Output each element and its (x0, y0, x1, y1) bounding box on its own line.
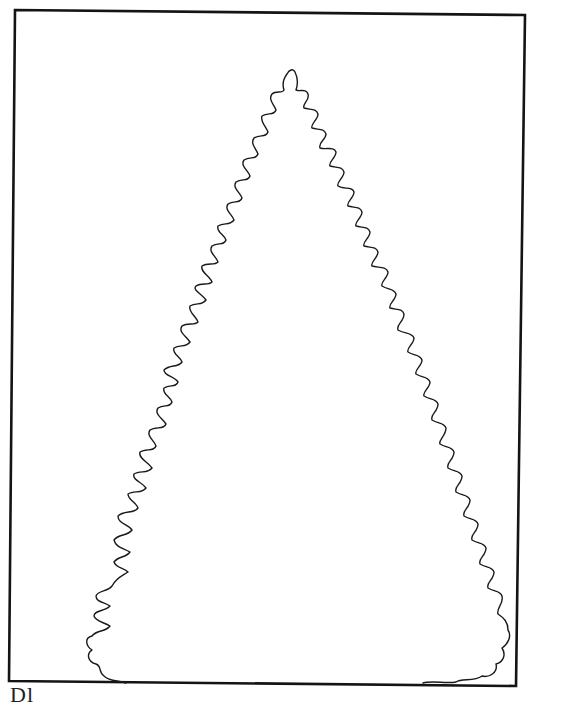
tree-outline (87, 70, 510, 683)
bottom-caption: Dl (10, 684, 34, 706)
picture-frame (9, 10, 525, 686)
